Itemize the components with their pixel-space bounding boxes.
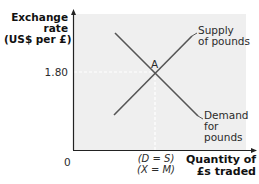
- x-tick-label-line-1: (D = S): [134, 153, 178, 164]
- x-tick-label: (D = S) (X = M): [134, 153, 178, 175]
- origin-label: 0: [64, 157, 71, 168]
- supply-label-line-2: of pounds: [198, 36, 250, 47]
- y-tick-label: 1.80: [30, 67, 68, 78]
- demand-label: Demand for pounds: [204, 110, 249, 143]
- x-axis-label-line-2: £s traded: [186, 166, 256, 178]
- equilibrium-label: A: [151, 59, 158, 70]
- supply-label: Supply of pounds: [198, 25, 250, 47]
- y-axis-label: Exchange rate (US$ per £): [4, 12, 68, 45]
- y-axis-label-line-3: (US$ per £): [4, 34, 68, 45]
- x-tick-label-line-2: (X = M): [134, 164, 178, 175]
- x-axis-label: Quantity of £s traded: [186, 154, 256, 178]
- demand-label-line-3: pounds: [204, 132, 249, 143]
- y-axis-arrow-icon: [71, 9, 76, 15]
